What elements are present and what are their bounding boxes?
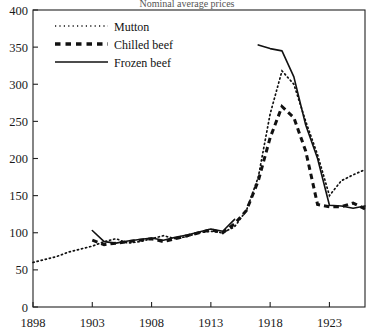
y-axis-tick-labels: 050100150200250300350400 <box>9 4 28 315</box>
x-tick-label: 1903 <box>80 316 105 330</box>
line-chart: Nominal average prices 05010015020025030… <box>0 0 375 333</box>
x-tick-label: 1923 <box>317 316 342 330</box>
x-axis-tick-marks <box>33 302 329 307</box>
series-layer <box>33 45 365 263</box>
y-tick-label: 50 <box>16 263 29 277</box>
y-tick-label: 300 <box>9 78 28 92</box>
y-tick-label: 0 <box>22 301 28 315</box>
legend-label: Mutton <box>114 20 149 34</box>
y-tick-label: 350 <box>9 41 28 55</box>
legend-label: Chilled beef <box>114 38 173 52</box>
plot-frame <box>33 10 365 307</box>
x-tick-label: 1918 <box>258 316 283 330</box>
x-axis-tick-labels: 189819031908191319181923 <box>21 316 342 330</box>
y-tick-label: 250 <box>9 115 28 129</box>
y-tick-label: 200 <box>9 152 28 166</box>
y-tick-label: 150 <box>9 189 28 203</box>
x-tick-label: 1908 <box>139 316 164 330</box>
chart-title: Nominal average prices <box>140 0 235 9</box>
y-tick-label: 100 <box>9 226 28 240</box>
chart-legend: MuttonChilled beefFrozen beef <box>55 20 173 70</box>
x-tick-label: 1913 <box>198 316 223 330</box>
x-tick-label: 1898 <box>21 316 46 330</box>
y-tick-label: 400 <box>9 4 28 18</box>
chart-container: Nominal average prices 05010015020025030… <box>0 0 375 333</box>
legend-label: Frozen beef <box>114 56 171 70</box>
